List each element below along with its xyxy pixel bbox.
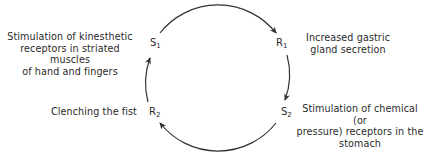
arrow-r2-to-s1 bbox=[146, 58, 150, 102]
label-s1: Stimulation of kinesthetic receptors in … bbox=[4, 31, 136, 77]
label-s2: Stimulation of chemical (or pressure) re… bbox=[296, 103, 424, 149]
label-r2: Clenching the fist bbox=[50, 106, 138, 118]
node-s2: S2 bbox=[281, 106, 292, 121]
node-s1: S1 bbox=[150, 37, 161, 52]
arrow-s1-to-r1 bbox=[160, 5, 276, 33]
arrow-s2-to-r2 bbox=[160, 123, 276, 151]
label-r1: Increased gastric gland secretion bbox=[298, 32, 398, 55]
arrow-r1-to-s2 bbox=[285, 55, 290, 100]
node-r2: R2 bbox=[149, 106, 160, 121]
node-r1: R1 bbox=[276, 37, 287, 52]
